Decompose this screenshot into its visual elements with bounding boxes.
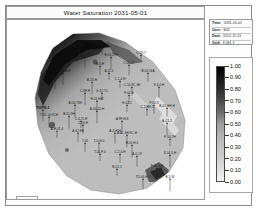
well-label: B-01-H-5 [126, 141, 139, 145]
well-label: C-29-7 [136, 51, 146, 55]
well-label: T-01-16-9CH [40, 113, 58, 117]
colorbar-label: 0.60 [230, 108, 241, 116]
info-box: Time: 2031-05-01 User: S03 Date: 2012-11… [209, 19, 253, 45]
info-value: 2031-05-01 [224, 21, 242, 27]
colorbar-label: 0.80 [230, 85, 241, 93]
colorbar-label: 0.70 [230, 97, 241, 105]
well-label: T-03 [82, 139, 88, 143]
well-label: C-06-1T [123, 61, 134, 65]
colorbar-label: 0.00 [230, 178, 241, 186]
well-label: A-11-H [74, 44, 84, 48]
well-label: C-10-9C-4H [124, 83, 141, 87]
well-label: B-04-19H [104, 53, 117, 57]
colorbar-tick [225, 89, 229, 90]
colorbar-label: 0.10 [230, 166, 241, 174]
well-label: F-01-9-H [151, 164, 163, 168]
colorbar-label: 0.30 [230, 143, 241, 151]
colorbar-panel: 1.000.900.800.700.600.500.400.300.200.10… [209, 57, 253, 193]
well-label: B-25-H [87, 78, 97, 82]
well-label: B-01-9H [63, 112, 75, 116]
title-bar: Water Saturation 2031-05-01 [6, 6, 205, 19]
colorbar-tick [225, 66, 229, 67]
well-label: C-06-H [78, 121, 88, 125]
well-label: C-1-4-H [114, 77, 125, 81]
well-label: F-04-H [124, 91, 134, 95]
colorbar-tick [225, 147, 229, 148]
well-label: A-11-5 [104, 69, 113, 73]
well-label: B-04-16A [141, 69, 155, 73]
well-label: T-0-H-0 [94, 139, 105, 143]
well-label: A-04-14-H [90, 107, 104, 111]
well-label: T-01-F-0 [94, 150, 106, 154]
well-label: X-04-5-H [164, 151, 177, 155]
well-label: H-01-HW [91, 97, 104, 101]
well-label: A-02-8H [72, 129, 84, 133]
well-label: E-02-2 [122, 101, 132, 105]
info-value: 2012-11-13 [223, 34, 241, 40]
info-value: 3 081 1 [223, 41, 235, 47]
well-label: F-04-7H [164, 135, 175, 139]
colorbar-label: 1.00 [230, 62, 241, 70]
well-label: B-H [52, 75, 57, 79]
well-label: A-0-19 [132, 152, 142, 156]
well-label: G-21-7C [96, 89, 109, 93]
page-title: Water Saturation 2031-05-01 [64, 9, 148, 16]
colorbar-label: 0.20 [230, 155, 241, 163]
well-label: C-1-HH-1 [140, 105, 154, 109]
info-key: Grid: [212, 41, 221, 47]
well-label: TD-04-H-2 [136, 175, 151, 179]
colorbar-tick [225, 158, 229, 159]
colorbar-label: 0.50 [230, 120, 241, 128]
info-row: Date: 2012-11-13 [212, 34, 251, 41]
colorbar-label: 0.40 [230, 131, 241, 139]
well-label: C-3-A-A-H [56, 69, 70, 73]
well-label: B-204-33 [96, 42, 109, 46]
colorbar-tick [225, 182, 229, 183]
colorbar-label: 0.90 [230, 73, 241, 81]
well-label: B-5-W [166, 175, 175, 179]
well-label: F-3-4-H [154, 83, 165, 87]
info-key: User: [212, 28, 221, 34]
well-label: A-9F-H-8 [116, 117, 129, 121]
colorbar-tick [225, 135, 229, 136]
water-saturation-map-window: Water Saturation 2031-05-01 Time: 2031-0… [0, 0, 259, 212]
info-row: Grid: 3 081 1 [212, 41, 251, 47]
colorbar-tick [225, 170, 229, 171]
well-label: A-04-74H [68, 101, 81, 105]
well-label: A-H-01-4 [51, 127, 64, 131]
well-label: B-01-HH-H [159, 104, 174, 108]
colorbar-tick [225, 77, 229, 78]
colorbar-tick [225, 100, 229, 101]
well-label: B-04-17H [78, 53, 91, 57]
well-label: TOPS-1 [36, 106, 49, 110]
well-label: B-01-1 [112, 165, 122, 169]
well-label: C-2-4-H [114, 150, 125, 154]
colorbar-tick [225, 112, 229, 113]
info-row: User: S03 [212, 28, 251, 35]
map-panel[interactable]: A-11-HB-204-33B-04-17HB-04-19HC-29-7B-3-… [6, 19, 205, 200]
info-key: Date: [212, 34, 221, 40]
well-label: C-8F-H [80, 89, 90, 93]
colorbar-tick [225, 124, 229, 125]
info-row: Time: 2031-05-01 [212, 21, 251, 28]
reservoir-grid-map[interactable]: A-11-HB-204-33B-04-17HB-04-19HC-29-7B-3-… [7, 20, 204, 199]
well-label: B-3-H [96, 62, 104, 66]
info-value: S03 [223, 28, 229, 34]
colorbar-gradient [216, 66, 225, 182]
well-label: A-AL-6H-9C-H [117, 131, 137, 135]
colorbar: 1.000.900.800.700.600.500.400.300.200.10… [216, 66, 252, 186]
well-label: A-C1-5 [162, 119, 172, 123]
north-arrow-icon [16, 196, 38, 200]
info-key: Time: [212, 21, 222, 27]
